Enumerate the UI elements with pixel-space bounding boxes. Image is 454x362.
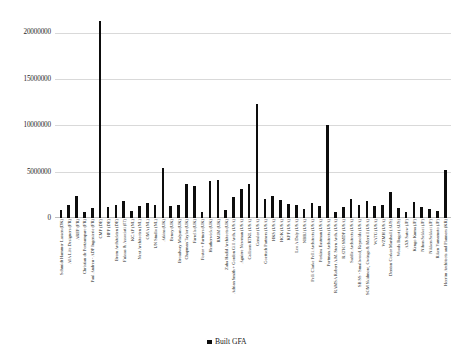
bar[interactable] bbox=[130, 211, 133, 218]
x-label-slot: Benoy (UK) bbox=[167, 219, 175, 331]
bar[interactable] bbox=[232, 197, 235, 218]
bar[interactable] bbox=[366, 201, 369, 218]
bar[interactable] bbox=[154, 205, 157, 218]
bar-series-built-gfa bbox=[55, 14, 451, 218]
x-tick-label: Next Architecten (NL) bbox=[137, 219, 142, 260]
bar-chart: 0 5000000 10000000 15000000 20000000 Sch… bbox=[0, 0, 454, 362]
bar[interactable] bbox=[444, 170, 447, 218]
bar-slot bbox=[261, 14, 269, 218]
x-label-slot: SB SS - Smallwood, Reynolds (USA) bbox=[355, 219, 363, 331]
x-label-slot: WATG (USA) bbox=[371, 219, 379, 331]
x-label-slot: SOM Skidmore, Owings & Merrill (USA) bbox=[363, 219, 371, 331]
bar-slot bbox=[441, 14, 449, 218]
x-tick-label: Benoy (UK) bbox=[168, 219, 173, 241]
bar[interactable] bbox=[248, 184, 251, 218]
bar-slot bbox=[410, 14, 418, 218]
x-label-slot: Foster + Partners (UK) bbox=[198, 219, 206, 331]
x-tick-label: Fuksas & Associati (IT) bbox=[121, 219, 126, 262]
x-axis-labels: Schmidt Hammer Lassen (DK)AIA Life Desig… bbox=[55, 219, 451, 331]
x-tick-label: Zaha Hadid Architects (UK) bbox=[223, 219, 228, 270]
bar-slot bbox=[175, 14, 183, 218]
bar[interactable] bbox=[224, 210, 227, 218]
bar[interactable] bbox=[428, 209, 431, 218]
x-tick-label: Heerim Architects and Planners (KR) bbox=[443, 219, 448, 286]
bar-slot bbox=[292, 14, 300, 218]
x-tick-label: Woods Bagot (AUS) bbox=[396, 219, 401, 256]
bar[interactable] bbox=[177, 205, 180, 218]
bar[interactable] bbox=[373, 206, 376, 218]
bar[interactable] bbox=[209, 181, 212, 218]
bar[interactable] bbox=[122, 201, 125, 218]
bar[interactable] bbox=[436, 211, 439, 218]
x-label-slot: Nihon Sekkei (JP) bbox=[418, 219, 426, 331]
bar[interactable] bbox=[138, 206, 141, 218]
bar[interactable] bbox=[279, 200, 282, 218]
bar[interactable] bbox=[169, 206, 172, 218]
bar-slot bbox=[371, 14, 379, 218]
x-label-slot: Gensler (USA) bbox=[253, 219, 261, 331]
x-tick-label: Portman Architects (USA) bbox=[325, 219, 330, 267]
y-tick-label: 0 bbox=[0, 215, 51, 222]
bar-slot bbox=[277, 14, 285, 218]
x-tick-label: RMJM (UK) bbox=[215, 219, 220, 242]
bar[interactable] bbox=[107, 207, 110, 218]
bar-slot bbox=[253, 14, 261, 218]
bar[interactable] bbox=[91, 208, 94, 218]
bar[interactable] bbox=[358, 205, 361, 218]
x-tick-label: KPF (USA) bbox=[286, 219, 291, 240]
bar-slot bbox=[332, 14, 340, 218]
bar[interactable] bbox=[99, 21, 102, 218]
x-label-slot: Farrells (UK) bbox=[190, 219, 198, 331]
bar[interactable] bbox=[60, 210, 63, 218]
bar[interactable] bbox=[115, 205, 118, 218]
x-label-slot: RMJM (UK) bbox=[214, 219, 222, 331]
x-label-slot: OMA (NL) bbox=[143, 219, 151, 331]
bar-slot bbox=[135, 14, 143, 218]
x-tick-label: CMP (DE) bbox=[98, 219, 103, 238]
bar[interactable] bbox=[303, 209, 306, 218]
x-label-slot: Leo A Daly (USA) bbox=[292, 219, 300, 331]
x-tick-label: UN Studio (NL) bbox=[153, 219, 158, 248]
bar[interactable] bbox=[413, 202, 416, 218]
bar[interactable] bbox=[217, 180, 220, 218]
bar[interactable] bbox=[75, 196, 78, 218]
bar[interactable] bbox=[334, 212, 337, 218]
x-label-slot: Heerim Architects and Planners (KR) bbox=[441, 219, 449, 331]
bar[interactable] bbox=[146, 203, 149, 218]
y-tick-label: 5000000 bbox=[0, 169, 51, 176]
bar[interactable] bbox=[83, 212, 86, 218]
bar[interactable] bbox=[311, 203, 314, 218]
x-label-slot: HKS (USA) bbox=[269, 219, 277, 331]
bar[interactable] bbox=[420, 207, 423, 218]
bar[interactable] bbox=[326, 125, 329, 218]
bar[interactable] bbox=[342, 207, 345, 218]
bar[interactable] bbox=[264, 199, 267, 218]
bar-slot bbox=[363, 14, 371, 218]
bar-slot bbox=[355, 14, 363, 218]
bar-slot bbox=[88, 14, 96, 218]
bar[interactable] bbox=[295, 205, 298, 218]
bar[interactable] bbox=[287, 204, 290, 218]
bar[interactable] bbox=[185, 184, 188, 218]
bar[interactable] bbox=[240, 189, 243, 218]
bar[interactable] bbox=[350, 199, 353, 218]
bar[interactable] bbox=[67, 205, 70, 218]
x-tick-label: RATIO SMDP (USA) bbox=[341, 219, 346, 259]
bar[interactable] bbox=[381, 205, 384, 218]
bar[interactable] bbox=[271, 196, 274, 218]
bar[interactable] bbox=[256, 104, 259, 218]
bar[interactable] bbox=[389, 192, 392, 218]
x-label-slot: Broadway Malyan (UK) bbox=[175, 219, 183, 331]
bar-slot bbox=[394, 14, 402, 218]
bar-slot bbox=[402, 14, 410, 218]
bar[interactable] bbox=[405, 212, 408, 218]
bar[interactable] bbox=[397, 208, 400, 218]
x-label-slot: Heatherwick (UK) bbox=[206, 219, 214, 331]
bar[interactable] bbox=[201, 212, 204, 218]
bar[interactable] bbox=[162, 168, 165, 218]
bar[interactable] bbox=[318, 206, 321, 218]
x-tick-label: Leo A Daly (USA) bbox=[294, 219, 299, 253]
x-label-slot: WZMH (USA) bbox=[379, 219, 387, 331]
x-label-slot: Denton Corker Marshall (AUS) bbox=[386, 219, 394, 331]
bar[interactable] bbox=[193, 186, 196, 218]
